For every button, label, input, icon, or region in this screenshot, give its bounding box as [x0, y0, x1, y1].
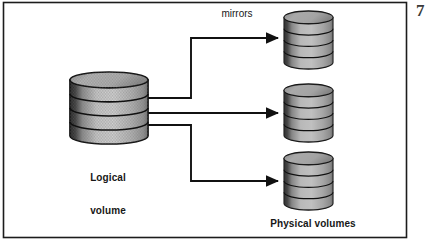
logical-volume-cylinder: [70, 72, 148, 144]
volume-mirroring-diagram: [0, 0, 432, 243]
logical-volume-label-line1: Logical: [68, 172, 148, 183]
logical-volume-label: Logical volume: [68, 150, 148, 238]
physical-volume-cylinder-1: [284, 11, 333, 69]
physical-volume-cylinder-3: [284, 152, 333, 210]
physical-volumes-label: Physical volumes: [248, 218, 378, 229]
mirrors-label: mirrors: [204, 8, 270, 19]
physical-volume-cylinder-2: [284, 84, 333, 142]
figure-container: mirrors Logical volume Physical volumes …: [0, 0, 432, 243]
page-number-mark: 7: [416, 1, 430, 19]
logical-volume-label-line2: volume: [68, 205, 148, 216]
